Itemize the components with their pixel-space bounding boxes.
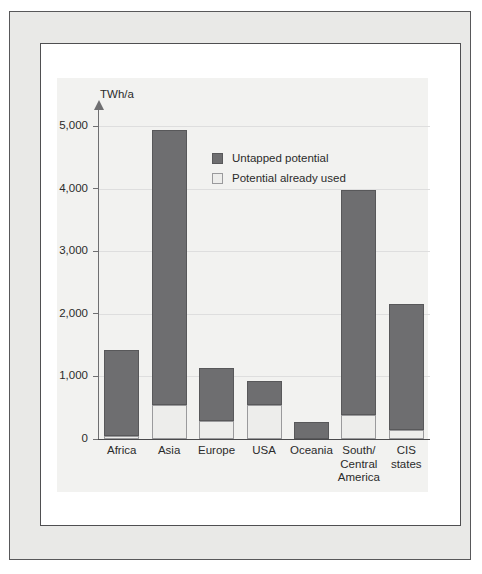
bar-segment-untapped: [247, 381, 282, 404]
bar-segment-untapped: [294, 422, 329, 439]
y-axis-tick-mark: [93, 376, 98, 377]
bar-segment-untapped: [199, 368, 234, 421]
x-axis-line: [98, 439, 430, 440]
bar-group: [341, 190, 376, 439]
x-axis-category-label: Africa: [98, 444, 145, 458]
bar-group: [294, 422, 329, 439]
y-axis-tick-mark: [93, 251, 98, 252]
bar-segment-already-used: [247, 405, 282, 439]
legend-label-untapped: Untapped potential: [232, 152, 329, 164]
y-axis-line: [98, 108, 99, 440]
bar-group: [389, 304, 424, 439]
bar-group: [199, 368, 234, 439]
category-label-line: USA: [240, 444, 287, 458]
category-label-line: CIS: [383, 444, 430, 458]
bar-segment-already-used: [104, 436, 139, 439]
category-label-line: Africa: [98, 444, 145, 458]
legend-swatch-already-used-icon: [212, 173, 223, 184]
y-axis-tick-label: 1,000: [44, 369, 88, 381]
category-label-line: Asia: [145, 444, 192, 458]
y-axis-tick-label: 0: [44, 432, 88, 444]
bar-segment-already-used: [341, 415, 376, 439]
category-label-line: Oceania: [288, 444, 335, 458]
bar-group: [152, 130, 187, 439]
gridline: [99, 376, 430, 377]
gridline: [99, 251, 430, 252]
x-axis-category-label: Oceania: [288, 444, 335, 458]
y-axis-tick-mark: [93, 188, 98, 189]
figure-root: TWh/a 01,0002,0003,0004,0005,000 AfricaA…: [0, 0, 482, 574]
x-axis-category-label: South/CentralAmerica: [335, 444, 382, 485]
y-axis-tick-mark: [93, 313, 98, 314]
gridline: [99, 126, 430, 127]
bar-group: [104, 350, 139, 439]
bar-segment-untapped: [152, 130, 187, 405]
y-axis-tick-mark: [93, 126, 98, 127]
bar-segment-untapped: [389, 304, 424, 429]
bar-segment-already-used: [389, 430, 424, 439]
bar-group: [247, 381, 282, 439]
legend-item-untapped: Untapped potential: [212, 152, 346, 164]
legend-label-already-used: Potential already used: [232, 172, 346, 184]
category-label-line: Central: [335, 458, 382, 472]
category-label-line: Europe: [193, 444, 240, 458]
bar-segment-untapped: [104, 350, 139, 436]
y-axis-tick-label: 5,000: [44, 119, 88, 131]
x-axis-category-label: Asia: [145, 444, 192, 458]
y-axis-arrow-icon: [94, 100, 104, 110]
bar-segment-already-used: [199, 421, 234, 439]
bar-segment-untapped: [341, 190, 376, 415]
y-axis-tick-mark: [93, 439, 98, 440]
y-axis-tick-label: 3,000: [44, 244, 88, 256]
gridline: [99, 314, 430, 315]
bar-segment-already-used: [152, 405, 187, 439]
y-axis-tick-label: 4,000: [44, 182, 88, 194]
category-label-line: states: [383, 458, 430, 472]
category-label-line: South/: [335, 444, 382, 458]
y-axis-tick-label: 2,000: [44, 307, 88, 319]
chart-legend: Untapped potential Potential already use…: [212, 152, 346, 192]
x-axis-category-label: USA: [240, 444, 287, 458]
legend-item-already-used: Potential already used: [212, 172, 346, 184]
category-label-line: America: [335, 471, 382, 485]
x-axis-category-label: CISstates: [383, 444, 430, 471]
legend-swatch-untapped-icon: [212, 153, 223, 164]
y-axis-unit-label: TWh/a: [100, 88, 134, 100]
x-axis-category-label: Europe: [193, 444, 240, 458]
